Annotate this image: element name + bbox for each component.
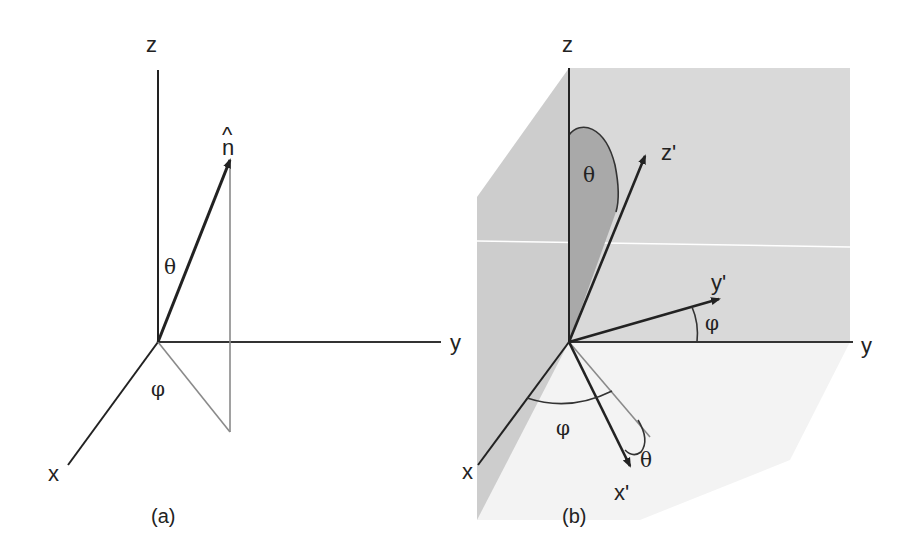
panel-b-caption: (b) [562,505,586,527]
y-axis-label: y [861,333,872,358]
n-vector [158,160,230,342]
panel-a-caption: (a) [151,505,175,527]
phi-label: φ [151,377,165,401]
panel-b: z y x z' y' x' θ φ φ θ (b) [462,32,872,527]
coordinate-diagram: z y x ^ n θ φ (a) z y x z [0,0,909,557]
projection-line [158,342,230,432]
z-prime-label: z' [661,140,676,165]
x-prime-label: x' [614,480,629,505]
y-axis-label: y [450,330,461,355]
phi-x-label: φ [556,416,570,440]
z-axis-label: z [562,32,573,57]
y-prime-label: y' [711,270,726,295]
phi-y-label: φ [705,311,719,335]
theta-x-label: θ [640,448,652,472]
x-axis-label: x [48,461,59,486]
n-hat-label: n [222,135,234,160]
z-axis-label: z [146,32,157,57]
theta-z-label: θ [583,163,595,187]
panel-a: z y x ^ n θ φ (a) [48,32,461,527]
x-axis [68,342,158,465]
x-axis-label: x [462,459,473,484]
theta-label: θ [164,255,176,279]
